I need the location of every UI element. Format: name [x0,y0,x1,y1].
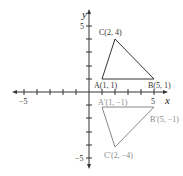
coordinate-plane: −5 5 x 5 −5 y A(1, 1) B(5, 1) C(2, 4) [0,0,183,176]
triangle-abc: A(1, 1) B(5, 1) C(2, 4) [94,28,171,90]
vertex-label-b: B(5, 1) [148,81,171,90]
x-axis: −5 5 x [12,89,170,106]
vertex-label-a-prime: A′(1, −1) [98,98,128,107]
y-axis-top-arrow-icon [87,9,91,14]
vertex-label-b-prime: B′(5, −1) [150,115,179,124]
x-axis-label: x [164,94,170,106]
vertex-label-c-prime: C′(2, −4) [104,151,133,160]
vertex-label-c: C(2, 4) [99,28,122,37]
y-axis-bottom-arrow-icon [87,164,91,169]
vertex-label-a: A(1, 1) [94,81,117,90]
y-tick-label-neg5: −5 [75,154,84,163]
y-axis-label: y [81,8,87,20]
x-axis-left-arrow-icon [12,90,17,94]
x-tick-label-5: 5 [151,97,155,106]
x-tick-label-neg5: −5 [19,97,28,106]
y-tick-label-5: 5 [80,22,84,31]
y-axis: 5 −5 y [75,8,92,169]
triangle-abc-prime: A′(1, −1) B′(5, −1) C′(2, −4) [98,98,179,160]
